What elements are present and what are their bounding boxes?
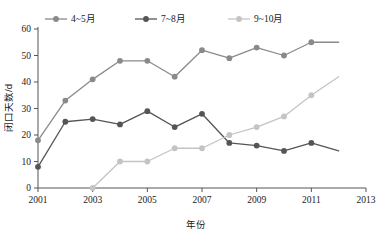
x-axis-ticks: 2001200320052007200920112013 xyxy=(29,188,376,205)
data-point-marker xyxy=(308,39,314,45)
x-tick-label: 2009 xyxy=(247,195,266,205)
series-2 xyxy=(35,108,339,169)
x-tick-label: 2011 xyxy=(302,195,321,205)
y-tick-label: 50 xyxy=(22,51,32,61)
series-1 xyxy=(35,39,339,143)
data-point-marker xyxy=(144,159,150,165)
data-point-marker xyxy=(308,140,314,146)
data-point-marker xyxy=(62,119,68,125)
data-point-marker xyxy=(308,92,314,98)
data-point-marker xyxy=(172,74,178,80)
y-tick-label: 0 xyxy=(26,183,31,193)
x-tick-label: 2007 xyxy=(193,195,212,205)
legend-marker-swatch xyxy=(143,16,149,22)
data-point-marker xyxy=(117,122,123,128)
data-point-marker xyxy=(254,124,260,130)
data-point-marker xyxy=(199,47,205,53)
data-point-marker xyxy=(117,159,123,165)
data-point-marker xyxy=(35,164,41,170)
series-group xyxy=(35,39,339,191)
data-point-marker xyxy=(62,98,68,104)
data-point-marker xyxy=(254,45,260,51)
legend-item-2[interactable]: 7~8月 xyxy=(135,14,186,24)
y-tick-label: 10 xyxy=(22,157,32,167)
legend-marker-swatch xyxy=(236,16,242,22)
data-point-marker xyxy=(144,58,150,64)
chart-container: 0102030405060 20012003200520072009201120… xyxy=(0,0,379,233)
data-point-marker xyxy=(226,55,232,61)
y-tick-label: 60 xyxy=(22,24,32,34)
legend-item-3[interactable]: 9~10月 xyxy=(228,14,283,24)
data-point-marker xyxy=(254,143,260,149)
y-axis-title: 闭口天数/d xyxy=(3,84,14,132)
series-line xyxy=(38,111,339,167)
data-point-marker xyxy=(281,53,287,59)
y-tick-label: 20 xyxy=(22,130,32,140)
y-tick-label: 30 xyxy=(22,104,32,114)
series-line xyxy=(93,77,339,188)
data-point-marker xyxy=(281,148,287,154)
data-point-marker xyxy=(199,145,205,151)
legend-label: 4~5月 xyxy=(71,14,96,24)
data-point-marker xyxy=(117,58,123,64)
x-tick-label: 2001 xyxy=(29,195,48,205)
data-point-marker xyxy=(90,116,96,122)
series-line xyxy=(38,42,339,140)
data-point-marker xyxy=(172,124,178,130)
data-point-marker xyxy=(226,132,232,138)
data-point-marker xyxy=(226,140,232,146)
data-point-marker xyxy=(35,137,41,143)
x-tick-label: 2013 xyxy=(357,195,376,205)
axes-group: 0102030405060 20012003200520072009201120… xyxy=(22,24,376,205)
chart-legend: 4~5月7~8月9~10月 xyxy=(45,14,283,24)
x-tick-label: 2005 xyxy=(138,195,157,205)
x-axis-title: 年份 xyxy=(186,219,206,230)
data-point-marker xyxy=(172,145,178,151)
data-point-marker xyxy=(144,108,150,114)
data-point-marker xyxy=(199,111,205,117)
x-tick-label: 2003 xyxy=(83,195,102,205)
data-point-marker xyxy=(281,114,287,120)
legend-label: 9~10月 xyxy=(254,14,283,24)
data-point-marker xyxy=(90,76,96,82)
series-3 xyxy=(90,77,339,191)
legend-item-1[interactable]: 4~5月 xyxy=(45,14,96,24)
data-point-marker xyxy=(90,185,96,191)
y-tick-label: 40 xyxy=(22,77,32,87)
legend-marker-swatch xyxy=(53,16,59,22)
legend-label: 7~8月 xyxy=(161,14,186,24)
line-chart: 0102030405060 20012003200520072009201120… xyxy=(0,0,379,233)
